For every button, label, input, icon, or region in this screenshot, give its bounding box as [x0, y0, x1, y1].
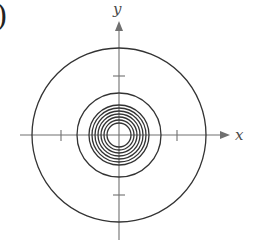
x-axis-arrow-icon	[220, 131, 230, 139]
x-axis-label: x	[235, 126, 244, 144]
axes	[20, 30, 222, 240]
y-axis-arrow-icon	[115, 21, 123, 31]
y-axis-label: y	[112, 0, 122, 18]
panel-label-fragment: )	[0, 0, 8, 33]
contour-plot: ) x y	[0, 0, 253, 244]
